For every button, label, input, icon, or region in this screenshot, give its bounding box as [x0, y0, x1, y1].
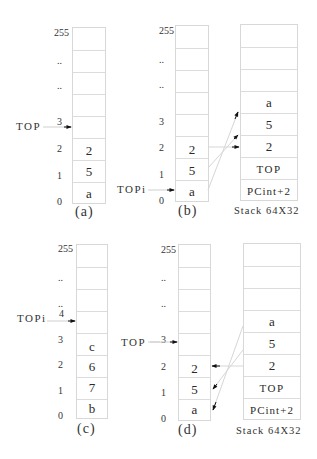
panel-caption: (a) — [75, 204, 94, 220]
index-label: .. — [57, 80, 62, 91]
stack-caption: Stack 64X32 — [236, 425, 302, 436]
cell: 6 — [77, 355, 107, 377]
cell: b — [77, 399, 107, 420]
cell: 2 — [73, 138, 105, 160]
hardware-stack-b: a 5 2 TOP PCint+2 — [240, 24, 298, 201]
index-label: 2 — [161, 361, 166, 372]
index-label: 255 — [58, 243, 73, 254]
cell — [176, 48, 208, 70]
index-label: 0 — [161, 413, 166, 424]
register-column-d: 2 5 a — [178, 244, 211, 421]
cell: 2 — [179, 355, 210, 377]
cell — [179, 333, 210, 355]
cell: a — [176, 180, 208, 202]
index-label: 4 — [59, 308, 64, 319]
cell — [176, 26, 208, 48]
cell: a — [73, 182, 105, 204]
cell — [77, 245, 107, 267]
top-pointer-label: TOP — [121, 336, 146, 348]
index-label: 1 — [159, 169, 164, 180]
stack-cell: 5 — [244, 332, 300, 354]
cell: 2 — [176, 136, 208, 158]
stack-cell: a — [241, 91, 297, 113]
stack-cell: PCint+2 — [241, 179, 297, 201]
cell — [179, 289, 210, 311]
cell: 5 — [179, 377, 210, 399]
stack-cell: TOP — [244, 376, 300, 398]
stack-caption: Stack 64X32 — [234, 205, 300, 216]
hardware-stack-d: a 5 2 TOP PCint+2 — [243, 243, 301, 420]
stack-cell — [241, 47, 297, 69]
stack-cell — [241, 69, 297, 91]
push-connector-arrows-b — [208, 112, 239, 190]
index-label: 1 — [161, 387, 166, 398]
cell: c — [77, 333, 107, 355]
index-label: 0 — [58, 410, 63, 421]
index-label: .. — [159, 79, 164, 90]
cell — [176, 92, 208, 114]
cell — [73, 116, 105, 138]
panel-caption: (c) — [77, 421, 96, 437]
index-label: 3 — [57, 116, 62, 127]
cell: a — [179, 399, 210, 421]
index-label: 255 — [159, 25, 174, 36]
cell — [73, 28, 105, 50]
cell — [179, 311, 210, 333]
cell — [179, 245, 210, 267]
stack-cell — [241, 25, 297, 47]
index-label: .. — [57, 55, 62, 66]
topi-pointer-label: TOPi — [17, 312, 47, 324]
stack-cell: a — [244, 310, 300, 332]
stack-cell: 5 — [241, 113, 297, 135]
cell — [176, 114, 208, 136]
stack-cell: PCint+2 — [244, 398, 300, 420]
stack-cell: 2 — [241, 135, 297, 157]
stack-cell — [244, 244, 300, 266]
index-label: 3 — [159, 116, 164, 127]
index-label: .. — [161, 272, 166, 283]
stack-cell: 2 — [244, 354, 300, 376]
top-pointer-label: TOP — [16, 120, 41, 132]
register-column-c: c 6 7 b — [76, 244, 108, 419]
index-label: .. — [161, 298, 166, 309]
cell: 5 — [73, 160, 105, 182]
index-label: 2 — [58, 359, 63, 370]
index-label: 1 — [58, 385, 63, 396]
index-label: 2 — [57, 143, 62, 154]
index-label: .. — [58, 272, 63, 283]
cell — [73, 72, 105, 94]
cell — [179, 267, 210, 289]
cell: 7 — [77, 377, 107, 399]
index-label: 0 — [159, 195, 164, 206]
cell — [77, 289, 107, 311]
index-label: 0 — [57, 196, 62, 207]
index-label: 255 — [54, 27, 69, 38]
stack-cell — [244, 266, 300, 288]
cell — [176, 70, 208, 92]
index-label: 2 — [159, 142, 164, 153]
topi-pointer-label: TOPi — [117, 183, 147, 195]
index-label: 1 — [57, 170, 62, 181]
index-label: 3 — [161, 334, 166, 345]
stack-cell: TOP — [241, 157, 297, 179]
panel-caption: (b) — [178, 203, 197, 219]
register-column-a: 2 5 a — [72, 27, 106, 204]
index-label: .. — [159, 54, 164, 65]
cell — [77, 267, 107, 289]
cell: 5 — [176, 158, 208, 180]
register-column-b: 2 5 a — [175, 25, 209, 202]
cell — [73, 94, 105, 116]
stack-cell — [244, 288, 300, 310]
pop-connector-arrows-d — [212, 326, 243, 410]
cell — [77, 311, 107, 333]
index-label: 3 — [58, 334, 63, 345]
cell — [73, 50, 105, 72]
index-label: 255 — [161, 244, 176, 255]
panel-caption: (d) — [178, 422, 197, 438]
